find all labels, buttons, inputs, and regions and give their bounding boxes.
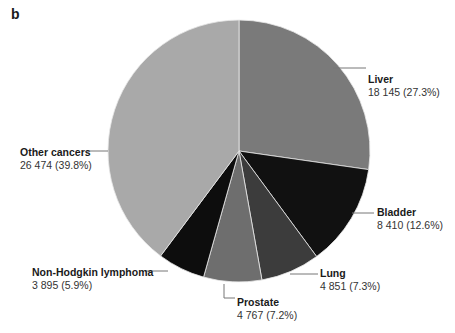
label-liver: Liver 18 145 (27.3%): [368, 73, 440, 99]
label-other-cancers: Other cancers 26 474 (39.8%): [20, 146, 92, 172]
label-bladder: Bladder 8 410 (12.6%): [377, 206, 443, 232]
label-prostate: Prostate 4 767 (7.2%): [237, 296, 297, 322]
label-non-hodgkin-lymphoma: Non-Hodgkin lymphoma 3 895 (5.9%): [32, 266, 153, 292]
pie-slice-liver: [239, 20, 370, 170]
label-lung: Lung 4 851 (7.3%): [320, 267, 380, 293]
leader-line: [224, 284, 235, 298]
